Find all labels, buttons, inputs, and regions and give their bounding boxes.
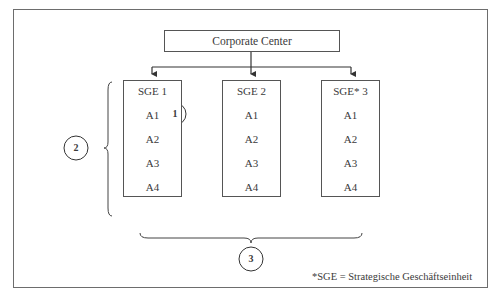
marker-3: 3 <box>239 247 263 271</box>
activity-item: A1 <box>223 109 280 121</box>
corporate-center-label: Corporate Center <box>212 35 292 47</box>
activity-item: A4 <box>322 181 379 193</box>
activity-item: A2 <box>124 133 181 145</box>
activity-item: A3 <box>322 157 379 169</box>
activity-item: A1 <box>322 109 379 121</box>
marker-1: 1 <box>163 102 187 126</box>
sge-title: SGE 2 <box>223 85 280 97</box>
sge-1-box: SGE 1 A1 A2 A3 A4 <box>123 80 182 197</box>
sge-3-box: SGE* 3 A1 A2 A3 A4 <box>321 80 380 197</box>
footnote: *SGE = Strategische Geschäftseinheit <box>312 271 472 282</box>
sge-2-box: SGE 2 A1 A2 A3 A4 <box>222 80 281 197</box>
activity-item: A3 <box>223 157 280 169</box>
activity-item: A2 <box>223 133 280 145</box>
corporate-center-box: Corporate Center <box>164 30 340 52</box>
activity-item: A4 <box>223 181 280 193</box>
activity-item: A2 <box>322 133 379 145</box>
sge-title: SGE* 3 <box>322 85 379 97</box>
sge-title: SGE 1 <box>124 85 181 97</box>
org-diagram: Corporate Center SGE 1 A1 A2 A3 A4 SGE 2… <box>0 0 499 298</box>
activity-item: A4 <box>124 181 181 193</box>
marker-2: 2 <box>64 136 88 160</box>
activity-item: A3 <box>124 157 181 169</box>
